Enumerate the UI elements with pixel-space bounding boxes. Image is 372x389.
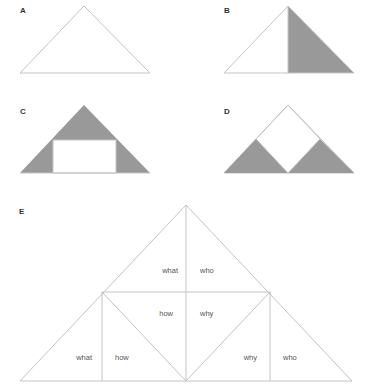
- panel-e-left-diagonal: [102, 292, 186, 381]
- panel-e: E what who how why what how why who: [19, 205, 352, 381]
- panel-c-label: C: [20, 107, 26, 116]
- word-bottom-right-outer: who: [282, 353, 297, 362]
- panel-a-label: A: [20, 6, 26, 15]
- panel-e-label: E: [19, 207, 25, 216]
- panel-d-shaded-left: [224, 139, 288, 173]
- panel-a-triangle: [20, 6, 150, 73]
- word-top-left: what: [161, 266, 179, 275]
- panel-d: D: [224, 105, 354, 173]
- panel-d-shaded-right: [288, 139, 354, 173]
- word-bottom-left-outer: what: [75, 353, 93, 362]
- word-mid-right: why: [199, 309, 214, 318]
- diagram-canvas: A B C D E what who how why what: [0, 0, 372, 389]
- panel-e-right-diagonal: [186, 292, 270, 381]
- word-mid-left: how: [159, 309, 173, 318]
- word-bottom-left-inner: how: [115, 353, 129, 362]
- panel-d-label: D: [224, 107, 230, 116]
- word-bottom-right-inner: why: [243, 353, 258, 362]
- panel-c: C: [20, 105, 150, 173]
- panel-b-label: B: [224, 6, 230, 15]
- panel-a: A: [20, 6, 150, 73]
- panel-c-white-rectangle: [53, 140, 116, 173]
- word-top-right: who: [199, 266, 214, 275]
- panel-b: B: [224, 6, 354, 73]
